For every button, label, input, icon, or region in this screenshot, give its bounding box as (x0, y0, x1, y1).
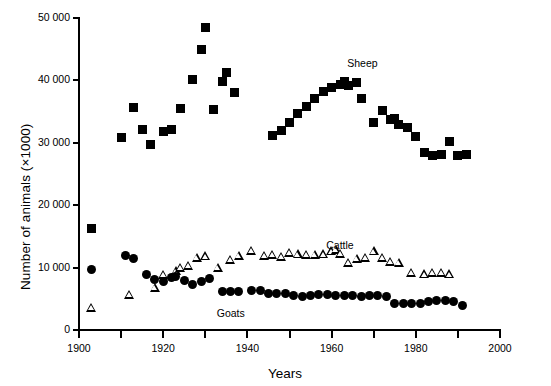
x-tick (373, 331, 375, 338)
data-point-sheep (222, 68, 231, 77)
y-tick (73, 79, 80, 81)
x-tick-label: 1980 (403, 343, 429, 354)
data-point-sheep (437, 150, 446, 159)
data-point-goats (449, 297, 458, 306)
x-tick-label: 1960 (319, 343, 345, 354)
x-tick (457, 331, 459, 338)
data-point-goats (188, 280, 197, 289)
data-point-goats (458, 301, 467, 310)
data-point-cattle (213, 263, 223, 272)
data-point-goats (205, 274, 214, 283)
data-point-sheep (138, 125, 147, 134)
data-point-sheep (352, 78, 361, 87)
y-tick (73, 204, 80, 206)
data-point-sheep (188, 75, 197, 84)
data-point-goats (234, 287, 243, 296)
y-tick-label: 30 000 (38, 137, 70, 148)
x-tick (289, 331, 291, 338)
data-point-goats (171, 272, 180, 281)
x-tick (415, 331, 417, 338)
x-tick (120, 331, 122, 338)
data-point-cattle (150, 283, 160, 292)
data-point-sheep (197, 45, 206, 54)
data-point-cattle (406, 268, 416, 277)
data-point-cattle (394, 258, 404, 267)
x-tick-label: 1940 (234, 343, 260, 354)
x-tick (499, 331, 501, 338)
x-tick-label: 2000 (487, 343, 513, 354)
data-point-goats (247, 286, 256, 295)
y-tick-label: 40 000 (38, 74, 70, 85)
data-point-sheep (302, 102, 311, 111)
data-point-sheep (403, 123, 412, 132)
x-tick (331, 331, 333, 338)
data-point-cattle (246, 246, 256, 255)
x-tick (246, 331, 248, 338)
data-point-sheep (129, 103, 138, 112)
data-point-sheep (230, 88, 239, 97)
series-label-goats: Goats (217, 307, 245, 319)
x-tick-label: 1900 (66, 343, 92, 354)
data-point-sheep (176, 104, 185, 113)
data-point-goats (390, 299, 399, 308)
data-point-sheep (277, 126, 286, 135)
data-point-sheep (445, 137, 454, 146)
y-tick-label: 0 (64, 324, 70, 335)
y-tick (73, 267, 80, 269)
y-axis-title: Number of animals (×1000) (18, 124, 33, 290)
data-point-sheep (209, 105, 218, 114)
y-tick (73, 142, 80, 144)
data-point-cattle (444, 269, 454, 278)
y-tick-label: 50 000 (38, 12, 70, 23)
x-tick (204, 331, 206, 338)
data-point-sheep (462, 150, 471, 159)
y-tick-label: 20 000 (38, 199, 70, 210)
data-point-goats (129, 254, 138, 263)
data-point-sheep (117, 133, 126, 142)
data-point-cattle (124, 290, 134, 299)
data-point-goats (331, 291, 340, 300)
y-tick (73, 17, 80, 19)
y-axis-line (78, 18, 80, 331)
data-point-sheep (146, 140, 155, 149)
data-point-goats (432, 296, 441, 305)
data-point-sheep (167, 125, 176, 134)
data-point-sheep (369, 118, 378, 127)
data-point-goats (87, 265, 96, 274)
data-point-sheep (357, 94, 366, 103)
data-point-sheep (285, 118, 294, 127)
data-point-goats (382, 292, 391, 301)
chart-figure: 010 00020 00030 00040 00050 000 19001920… (0, 0, 551, 386)
data-point-goats (289, 291, 298, 300)
data-point-sheep (218, 77, 227, 86)
x-tick (78, 331, 80, 338)
x-tick (162, 331, 164, 338)
data-point-cattle (200, 251, 210, 260)
y-tick-label: 10 000 (38, 262, 70, 273)
data-point-cattle (234, 251, 244, 260)
data-point-sheep (87, 224, 96, 233)
data-point-sheep (411, 132, 420, 141)
data-point-goats (407, 299, 416, 308)
x-axis-title: Years (268, 366, 302, 381)
x-tick-label: 1920 (150, 343, 176, 354)
data-point-sheep (201, 23, 210, 32)
series-label-cattle: Cattle (326, 239, 353, 251)
data-point-cattle (86, 303, 96, 312)
data-point-goats (348, 291, 357, 300)
series-label-sheep: Sheep (347, 57, 377, 69)
